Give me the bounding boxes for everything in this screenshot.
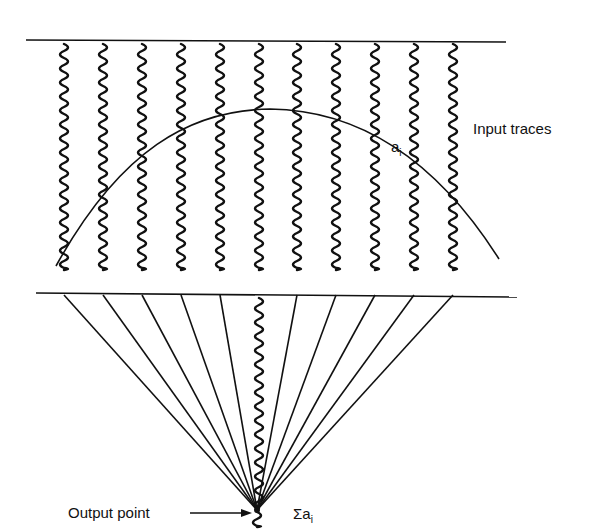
input-trace-9 xyxy=(371,44,379,270)
input-trace-2 xyxy=(99,44,107,270)
input-trace-8 xyxy=(332,44,340,270)
fan-line-1 xyxy=(64,295,257,510)
diagram-canvas: Input traces ai Output point Σai xyxy=(0,0,608,530)
bottom-horizon-line xyxy=(36,293,517,297)
sum-label: Σai xyxy=(293,505,313,525)
output-trace xyxy=(253,512,261,527)
amplitude-label: ai xyxy=(391,138,402,158)
sum-subscript: i xyxy=(311,514,313,525)
input-trace-5 xyxy=(216,44,224,270)
top-horizon-line xyxy=(26,40,506,42)
input-trace-11 xyxy=(449,44,457,270)
input-traces-group xyxy=(60,44,457,270)
fan-line-8 xyxy=(257,295,336,510)
fan-line-2 xyxy=(103,295,257,510)
output-point-label: Output point xyxy=(68,504,151,521)
fan-line-9 xyxy=(257,295,375,510)
fan-line-10 xyxy=(257,295,414,510)
fan-line-4 xyxy=(181,295,257,510)
input-trace-3 xyxy=(138,44,146,270)
sum-symbol: Σa xyxy=(293,505,311,522)
fan-line-11 xyxy=(257,295,453,510)
amplitude-subscript: i xyxy=(399,147,401,158)
output-point-marker xyxy=(254,507,260,513)
input-trace-4 xyxy=(177,44,185,270)
fan-line-3 xyxy=(142,295,257,510)
fan-line-5 xyxy=(220,295,257,510)
diffraction-hyperbola-curve xyxy=(56,109,499,266)
center-trace xyxy=(255,298,263,508)
input-trace-6 xyxy=(255,44,263,270)
output-point-arrow xyxy=(190,509,252,517)
input-traces-label: Input traces xyxy=(473,120,551,137)
input-trace-1 xyxy=(60,44,68,270)
arrow-head-icon xyxy=(241,509,252,517)
input-trace-7 xyxy=(293,44,301,270)
input-trace-10 xyxy=(410,44,418,270)
